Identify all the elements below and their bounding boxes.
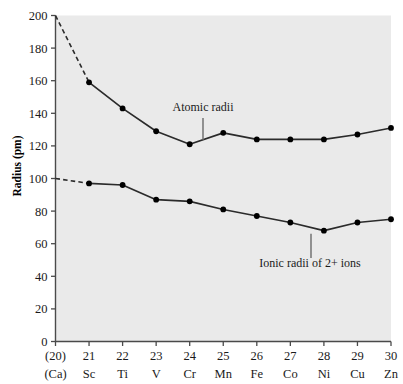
- x-atomic-number-label: 27: [284, 349, 297, 363]
- x-axis-labels: (20)(Ca)21Sc22Ti23V24Cr25Mn26Fe27Co28Ni2…: [44, 349, 398, 381]
- data-point-marker: [86, 180, 92, 186]
- x-atomic-number-label: 22: [116, 349, 129, 363]
- annotation-atomic-radii: Atomic radii: [173, 100, 235, 114]
- y-tick-label: 40: [35, 270, 48, 284]
- plot-background: [56, 16, 392, 342]
- x-atomic-number-label: 28: [318, 349, 331, 363]
- data-point-marker: [220, 130, 226, 136]
- data-point-marker: [388, 216, 394, 222]
- x-element-symbol-label: Cr: [183, 367, 196, 381]
- x-atomic-number-label: (20): [45, 349, 66, 363]
- plot-area: [56, 16, 392, 342]
- y-axis-ticks: 020406080100120140160180200: [29, 9, 56, 349]
- x-element-symbol-label: Ni: [318, 367, 331, 381]
- data-point-marker: [120, 182, 126, 188]
- y-tick-label: 0: [41, 335, 47, 349]
- y-axis-title: Radius (pm): [11, 111, 23, 221]
- x-element-symbol-label: Fe: [251, 367, 264, 381]
- data-point-marker: [287, 220, 293, 226]
- data-point-marker: [287, 136, 293, 142]
- y-tick-label: 160: [29, 74, 48, 88]
- data-point-marker: [321, 136, 327, 142]
- data-point-marker: [321, 228, 327, 234]
- y-tick-label: 140: [29, 107, 48, 121]
- data-point-marker: [153, 128, 159, 134]
- x-element-symbol-label: V: [152, 367, 161, 381]
- data-point-marker: [187, 198, 193, 204]
- x-element-symbol-label: Mn: [215, 367, 233, 381]
- x-atomic-number-label: 23: [150, 349, 163, 363]
- data-point-marker: [254, 213, 260, 219]
- x-atomic-number-label: 24: [183, 349, 196, 363]
- chart-canvas: 020406080100120140160180200 Atomic radii…: [0, 0, 403, 384]
- data-point-marker: [254, 136, 260, 142]
- x-element-symbol-label: Zn: [384, 367, 399, 381]
- data-point-marker: [187, 141, 193, 147]
- data-point-marker: [86, 79, 92, 85]
- x-element-symbol-label: Co: [283, 367, 298, 381]
- y-tick-label: 120: [29, 139, 48, 153]
- data-point-marker: [120, 106, 126, 112]
- annotation-ionic-radii: Ionic radii of 2+ ions: [259, 256, 361, 270]
- y-tick-label: 180: [29, 42, 48, 56]
- x-element-symbol-label: Cu: [350, 367, 365, 381]
- data-point-marker: [355, 132, 361, 138]
- x-atomic-number-label: 29: [351, 349, 364, 363]
- data-point-marker: [355, 220, 361, 226]
- y-tick-label: 100: [29, 172, 48, 186]
- data-point-marker: [153, 197, 159, 203]
- data-point-marker: [388, 125, 394, 131]
- radius-trend-chart: Radius (pm) 020406080100120140160180200 …: [0, 0, 403, 384]
- x-atomic-number-label: 30: [385, 349, 398, 363]
- y-tick-label: 80: [35, 205, 48, 219]
- y-tick-label: 200: [29, 9, 48, 23]
- x-atomic-number-label: 26: [251, 349, 264, 363]
- x-atomic-number-label: 25: [217, 349, 230, 363]
- data-point-marker: [220, 207, 226, 213]
- x-element-symbol-label: (Ca): [44, 367, 66, 381]
- x-atomic-number-label: 21: [83, 349, 96, 363]
- x-element-symbol-label: Sc: [83, 367, 96, 381]
- y-tick-label: 20: [35, 302, 48, 316]
- x-element-symbol-label: Ti: [117, 367, 128, 381]
- y-tick-label: 60: [35, 237, 48, 251]
